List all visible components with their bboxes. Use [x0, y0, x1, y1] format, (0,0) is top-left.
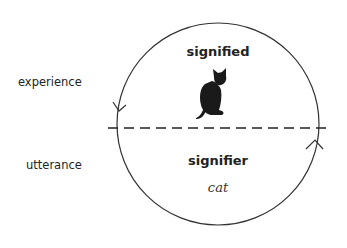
arrow-up-icon: [306, 140, 323, 149]
word-cat-label: cat: [208, 180, 228, 195]
utterance-label: utterance: [26, 158, 82, 172]
cat-icon: [196, 68, 226, 119]
diagram-graphics: [0, 0, 347, 248]
signified-label: signified: [187, 44, 250, 59]
signifier-label: signifier: [188, 153, 248, 168]
semiotic-diagram: experience utterance signified signifier…: [0, 0, 347, 248]
experience-label: experience: [18, 75, 82, 89]
